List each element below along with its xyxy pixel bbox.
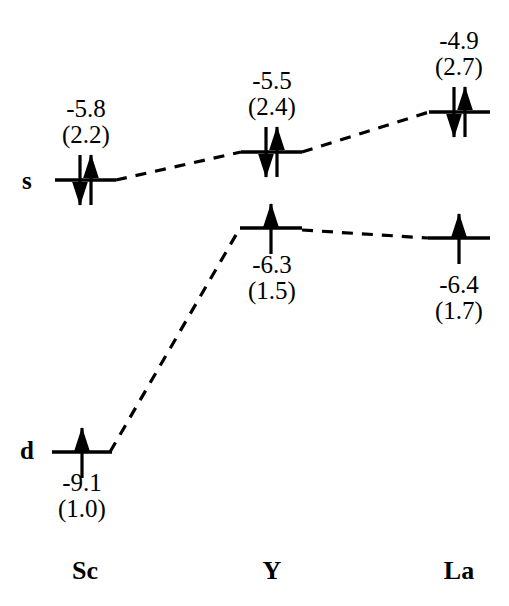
connector-d-sc-y xyxy=(110,228,240,452)
level-occupancy-d-y: (1.5) xyxy=(222,278,322,304)
connector-d-y-la xyxy=(302,230,428,238)
level-value-s-y: -5.5 (2.4) xyxy=(222,68,322,119)
level-energy-s-y: -5.5 xyxy=(222,68,322,94)
orbital-row-label-d: d xyxy=(20,438,34,463)
level-value-d-la: -6.4 (1.7) xyxy=(409,272,509,323)
level-energy-s-la: -4.9 xyxy=(409,28,509,54)
level-value-d-sc: -9.1 (1.0) xyxy=(32,470,132,521)
level-value-d-y: -6.3 (1.5) xyxy=(222,252,322,303)
level-occupancy-d-sc: (1.0) xyxy=(32,496,132,522)
level-energy-d-la: -6.4 xyxy=(409,272,509,298)
element-label-la: La xyxy=(409,558,509,584)
level-value-s-la: -4.9 (2.7) xyxy=(409,28,509,79)
element-label-y: Y xyxy=(222,558,322,584)
orbital-row-label-s: s xyxy=(22,168,32,193)
level-occupancy-s-sc: (2.2) xyxy=(36,122,136,148)
level-occupancy-s-y: (2.4) xyxy=(222,94,322,120)
level-energy-d-y: -6.3 xyxy=(222,252,322,278)
level-value-s-sc: -5.8 (2.2) xyxy=(36,96,136,147)
orbital-energy-diagram: s d -5.8 (2.2) -5.5 (2.4) -4.9 (2.7) -9.… xyxy=(0,0,509,606)
level-energy-d-sc: -9.1 xyxy=(32,470,132,496)
connector-s-sc-y xyxy=(116,152,241,180)
element-label-sc: Sc xyxy=(35,558,135,584)
level-occupancy-s-la: (2.7) xyxy=(409,54,509,80)
level-occupancy-d-la: (1.7) xyxy=(409,298,509,324)
level-energy-s-sc: -5.8 xyxy=(36,96,136,122)
